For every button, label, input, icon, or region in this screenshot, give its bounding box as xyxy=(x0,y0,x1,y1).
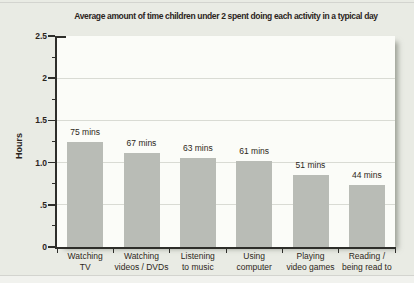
y-tick-label: 2 xyxy=(21,73,47,83)
x-category-label-line: being read to xyxy=(329,262,405,273)
bar xyxy=(236,161,272,247)
gridline xyxy=(57,78,395,79)
y-tick-major xyxy=(48,77,55,79)
gridline xyxy=(57,120,395,121)
y-tick-minor xyxy=(52,225,56,226)
y-tick-minor xyxy=(52,183,56,184)
bar xyxy=(180,158,216,247)
y-tick-minor xyxy=(52,57,56,58)
page-top-edge xyxy=(0,2,414,3)
y-tick-label: 2.5 xyxy=(21,31,47,41)
y-axis-top-cap xyxy=(57,36,66,38)
y-axis-line xyxy=(55,36,57,249)
y-tick-label: 1.0 xyxy=(21,158,47,168)
y-tick-major xyxy=(48,162,55,164)
bar xyxy=(124,153,160,247)
y-tick-minor xyxy=(52,99,56,100)
page-bottom-strip xyxy=(0,276,414,283)
y-tick-label: .5 xyxy=(21,200,47,210)
y-tick-minor xyxy=(52,141,56,142)
bar xyxy=(67,142,103,248)
x-category-label: Reading /being read to xyxy=(329,251,405,272)
bar xyxy=(349,185,385,247)
y-tick-major xyxy=(48,246,55,248)
y-tick-label: 1.5 xyxy=(21,115,47,125)
bar-value-label: 75 mins xyxy=(50,127,120,138)
gridline xyxy=(57,204,395,205)
page-bottom-edge xyxy=(0,275,414,276)
x-category-label-line: Reading / xyxy=(329,251,405,262)
y-tick-label: 0 xyxy=(21,242,47,252)
chart-page: Average amount of time children under 2 … xyxy=(0,0,414,283)
chart-title: Average amount of time children under 2 … xyxy=(57,11,395,21)
bar-value-label: 61 mins xyxy=(219,146,289,157)
y-tick-major xyxy=(48,120,55,122)
y-tick-major xyxy=(48,35,55,37)
bar-value-label: 44 mins xyxy=(332,170,402,181)
bar xyxy=(293,175,329,247)
y-tick-major xyxy=(48,204,55,206)
